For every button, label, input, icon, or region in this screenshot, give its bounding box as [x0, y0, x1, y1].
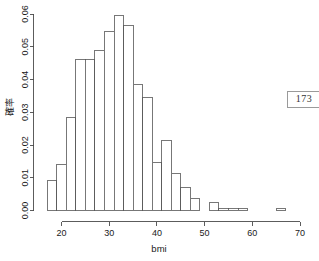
histogram-bar [76, 59, 86, 210]
x-tick-label: 30 [104, 228, 114, 238]
histogram-bar [238, 209, 248, 211]
page-number-badge: 173 [287, 91, 319, 108]
histogram-bar [47, 180, 57, 210]
histogram-bar [95, 50, 105, 210]
histogram-bar [152, 162, 162, 210]
histogram-bar [181, 187, 191, 210]
histogram-bar [57, 165, 67, 211]
histogram-bar [85, 60, 95, 211]
histogram-bar [133, 84, 143, 210]
x-tick-label: 60 [247, 228, 257, 238]
x-tick-label: 70 [295, 228, 305, 238]
x-tick-label: 40 [152, 228, 162, 238]
x-axis-title: bmi [151, 243, 166, 254]
y-tick-label: 0.06 [20, 5, 30, 23]
x-tick-label: 50 [200, 228, 210, 238]
y-axis-title: 確率 [4, 98, 15, 116]
x-axis [62, 222, 300, 226]
histogram-bar [124, 25, 134, 210]
y-axis [30, 14, 34, 211]
histogram-bar [276, 209, 286, 211]
x-tick-label: 20 [57, 228, 67, 238]
y-tick-label: 0.03 [20, 103, 30, 121]
histogram-bars [47, 16, 285, 211]
histogram-svg: 203040506070 0.000.010.020.030.040.050.0… [0, 0, 319, 261]
histogram-plot: 203040506070 0.000.010.020.030.040.050.0… [0, 0, 319, 261]
histogram-bar [171, 173, 181, 210]
histogram-bar [162, 141, 172, 211]
histogram-bar [219, 209, 229, 211]
y-tick-label: 0.01 [20, 169, 30, 187]
histogram-bar [66, 117, 76, 210]
histogram-bar [228, 209, 238, 211]
y-tick-label: 0.05 [20, 38, 30, 56]
histogram-bar [114, 16, 124, 211]
y-tick-label: 0.02 [20, 136, 30, 154]
histogram-bar [143, 97, 153, 210]
x-tick-labels: 203040506070 [57, 228, 305, 238]
y-tick-label: 0.00 [20, 202, 30, 220]
y-tick-labels: 0.000.010.020.030.040.050.06 [20, 5, 30, 219]
y-tick-label: 0.04 [20, 71, 30, 89]
histogram-bar [190, 198, 200, 210]
histogram-bar [104, 32, 114, 211]
histogram-bar [209, 203, 219, 211]
